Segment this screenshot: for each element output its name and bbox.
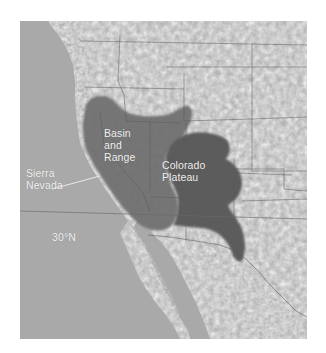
basin-label-line1: Basin — [104, 127, 135, 139]
latitude-30n-label: 30°N — [52, 231, 76, 243]
basin-and-range-label: Basin and Range — [104, 127, 135, 163]
colorado-plateau-label: Colorado Plateau — [162, 159, 205, 183]
sierra-label-line1: Sierra — [26, 167, 63, 179]
sierra-label-line2: Nevada — [26, 179, 63, 191]
plateau-label-line1: Colorado — [162, 159, 205, 171]
sierra-nevada-label: Sierra Nevada — [26, 167, 63, 191]
basin-label-line2: and — [104, 139, 135, 151]
plateau-label-line2: Plateau — [162, 171, 205, 183]
basin-label-line3: Range — [104, 151, 135, 163]
relief-map: Basin and Range Colorado Plateau Sierra … — [20, 21, 307, 339]
